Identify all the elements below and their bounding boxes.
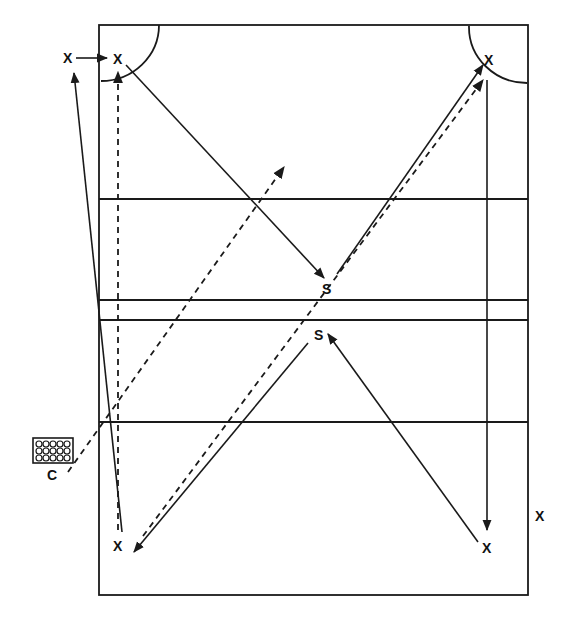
player-bottom-left: X xyxy=(113,538,123,554)
solid-paths xyxy=(74,58,487,552)
corner-arc-top-left xyxy=(101,25,159,81)
player-top-right: X xyxy=(484,52,494,68)
corner-arc-top-right xyxy=(469,26,527,83)
dashed-bottom-left-to-top-right xyxy=(143,80,483,536)
drill-diagram: X X X S S X X X C xyxy=(0,0,572,640)
setter-lower: S xyxy=(314,327,323,343)
setter-upper: S xyxy=(322,281,331,297)
labels: X X X S S X X X C xyxy=(47,50,545,556)
player-bottom-right: X xyxy=(482,540,492,556)
path-top-left-to-setter xyxy=(126,65,324,278)
path-setter-to-top-right xyxy=(337,65,483,274)
dashed-paths xyxy=(68,72,483,536)
path-bottom-right-to-setter xyxy=(328,334,478,542)
player-top-left: X xyxy=(113,51,123,67)
player-top-left-outside: X xyxy=(63,50,73,66)
path-setter-to-bottom-left xyxy=(134,343,308,552)
ball-cart-icon xyxy=(33,438,73,463)
path-bottom-left-to-outside xyxy=(74,73,122,532)
player-outside-right: X xyxy=(535,508,545,524)
coach-label: C xyxy=(47,467,57,483)
